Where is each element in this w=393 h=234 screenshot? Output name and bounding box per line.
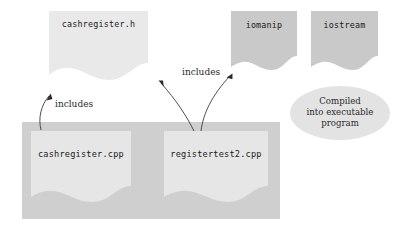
include-diagram: cashregister.h iomanip iostream cashregi… [0,0,393,234]
callout-line-2: into executable [307,107,374,117]
edge-includes-right: includes [159,67,233,131]
compiled-callout: Compiled into executable program [290,86,390,140]
iostream-label: iostream [324,20,366,30]
includes-right-label: includes [182,67,220,77]
cashregister-cpp-label: cashregister.cpp [38,149,124,159]
iomanip-label: iomanip [246,20,283,30]
callout-line-3: program [321,118,359,128]
cashregister-h-label: cashregister.h [62,19,135,29]
node-iomanip: iomanip [231,11,297,70]
node-cashregister-h: cashregister.h [49,11,148,80]
includes-left-arrow-head [47,94,53,101]
diagram-canvas: cashregister.h iomanip iostream cashregi… [0,0,393,234]
callout-line-1: Compiled [319,96,361,106]
node-iostream: iostream [311,11,378,70]
compilation-group: cashregister.cpp registertest2.cpp [22,122,280,219]
registertest2-cpp-label: registertest2.cpp [170,149,261,159]
includes-left-label: includes [55,99,93,109]
